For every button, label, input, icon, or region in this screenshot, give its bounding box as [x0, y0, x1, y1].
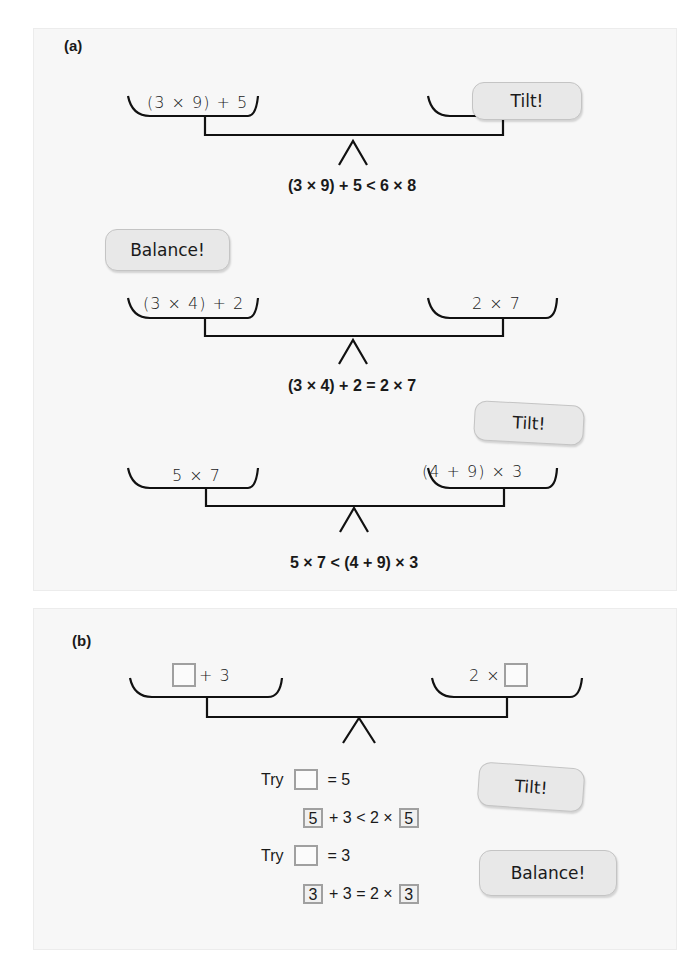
tilt-bubble-trial-1: Tilt!: [477, 761, 586, 812]
unknown-right-expression: 2 ×: [469, 663, 528, 687]
trial-1-equals: = 5: [328, 771, 351, 789]
right-expression-prefix: 2 ×: [469, 666, 501, 685]
trial-2-value-box-left: 3: [303, 884, 323, 904]
unknown-box-right: [504, 663, 528, 687]
trial-1-try-line: Try = 5: [261, 769, 350, 790]
unknown-box-left: [172, 663, 196, 687]
trial-2-try-line: Try = 3: [261, 845, 350, 866]
trial-1-equation: 5 + 3 < 2 × 5: [303, 808, 419, 828]
trial-2-middle: + 3 = 2 ×: [329, 885, 393, 903]
left-expression-suffix: + 3: [199, 666, 231, 685]
balance-bubble-trial-2: Balance!: [479, 850, 617, 896]
trial-1-try-label: Try: [261, 771, 284, 789]
trial-1-middle: + 3 < 2 ×: [329, 809, 393, 827]
trial-2-empty-box: [294, 845, 318, 866]
trial-1-value-box-right: 5: [399, 808, 419, 828]
trial-2-value-box-right: 3: [399, 884, 419, 904]
trial-2-equation: 3 + 3 = 2 × 3: [303, 884, 419, 904]
trial-1-empty-box: [294, 769, 318, 790]
trial-2-equals: = 3: [328, 847, 351, 865]
trial-2-try-label: Try: [261, 847, 284, 865]
trial-1-value-box-left: 5: [303, 808, 323, 828]
unknown-left-expression: + 3: [172, 663, 231, 687]
